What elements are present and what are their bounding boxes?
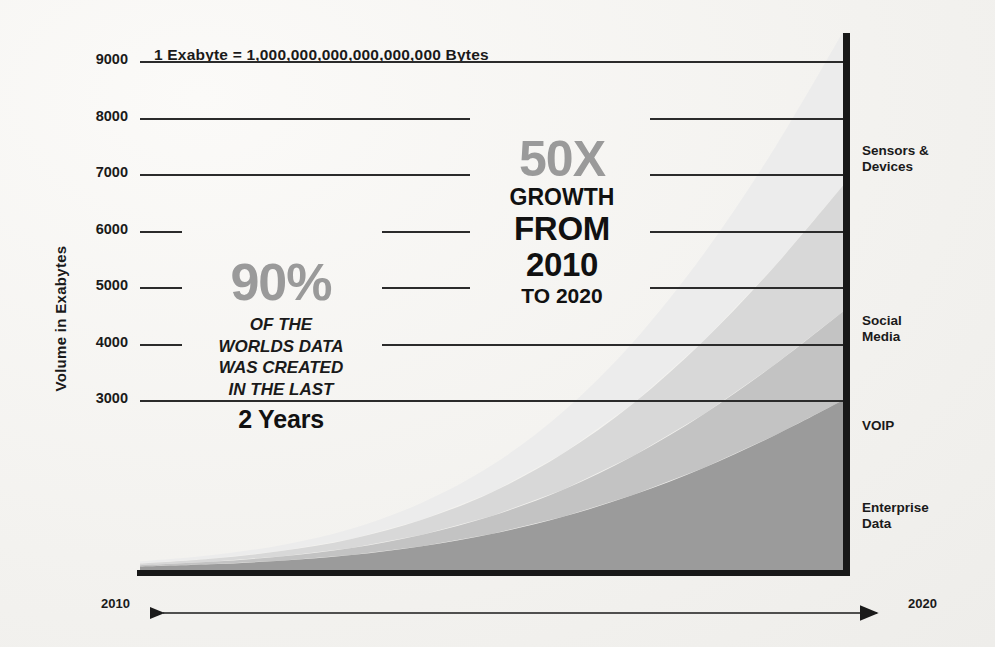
annotation-90-line4: IN THE LAST — [186, 379, 376, 400]
series-label-line2: Devices — [862, 159, 929, 175]
time-range-arrow — [150, 604, 890, 622]
gridline-4000-0 — [140, 344, 182, 346]
annotation-90-emphasis: 2 Years — [186, 406, 376, 434]
gridline-8000-1 — [650, 118, 848, 120]
infographic-chart: 1 Exabyte = 1,000,000,000,000,000,000 By… — [0, 0, 995, 647]
series-label-line2: Data — [862, 516, 929, 532]
y-tick-label-8000: 8000 — [66, 108, 128, 124]
gridline-7000-0 — [140, 174, 470, 176]
y-tick-label-7000: 7000 — [66, 164, 128, 180]
annotation-50x-growth: 50X GROWTH FROM 2010 TO 2020 — [478, 136, 646, 308]
gridline-6000-0 — [140, 231, 182, 233]
gridline-6000-1 — [382, 231, 470, 233]
x-axis-baseline — [137, 570, 849, 576]
gridline-9000-0 — [140, 61, 848, 63]
y-tick-label-6000: 6000 — [66, 221, 128, 237]
annotation-50-line2: FROM — [478, 211, 646, 247]
right-axis-bar — [843, 33, 850, 576]
series-label-line1: VOIP — [862, 418, 894, 434]
series-label-line1: Enterprise — [862, 500, 929, 516]
gridline-6000-2 — [650, 231, 848, 233]
series-label-line1: Sensors & — [862, 143, 929, 159]
annotation-90-line2: WORLDS DATA — [186, 336, 376, 357]
x-axis-end-label: 2020 — [908, 596, 937, 611]
series-label-0: Sensors &Devices — [862, 143, 929, 175]
gridline-5000-2 — [650, 287, 848, 289]
annotation-90-line3: WAS CREATED — [186, 357, 376, 378]
annotation-90-percent: 90% OF THE WORLDS DATA WAS CREATED IN TH… — [186, 258, 376, 434]
series-label-2: VOIP — [862, 418, 894, 434]
series-label-1: SocialMedia — [862, 313, 902, 345]
annotation-50-headline: 50X — [478, 136, 646, 182]
y-tick-label-3000: 3000 — [66, 390, 128, 406]
annotation-50-line3: 2010 — [478, 247, 646, 283]
annotation-50-line4: TO 2020 — [478, 284, 646, 309]
gridline-4000-1 — [382, 344, 848, 346]
gridline-7000-1 — [650, 174, 848, 176]
series-label-line2: Media — [862, 329, 902, 345]
series-label-line1: Social — [862, 313, 902, 329]
y-tick-label-4000: 4000 — [66, 334, 128, 350]
y-tick-label-9000: 9000 — [66, 51, 128, 67]
x-axis-start-label: 2010 — [101, 596, 130, 611]
annotation-90-line1: OF THE — [186, 314, 376, 335]
gridline-5000-1 — [382, 287, 470, 289]
gridline-8000-0 — [140, 118, 470, 120]
gridline-5000-0 — [140, 287, 182, 289]
series-label-3: EnterpriseData — [862, 500, 929, 532]
annotation-50-line1: GROWTH — [478, 185, 646, 211]
y-tick-label-5000: 5000 — [66, 277, 128, 293]
annotation-90-headline: 90% — [186, 258, 376, 307]
